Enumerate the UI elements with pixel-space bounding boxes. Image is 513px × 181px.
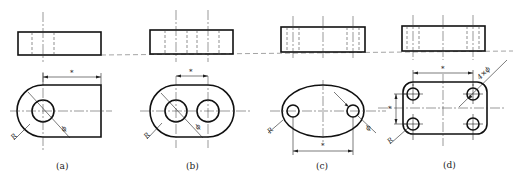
dim-star-c: * <box>321 142 325 150</box>
radius-label-b: R <box>142 131 153 142</box>
dim-star-d-horizontal: * <box>441 65 445 73</box>
radius-label-d: R <box>385 136 396 147</box>
front-view-b <box>150 10 233 62</box>
dim-star-b: * <box>189 68 193 76</box>
top-view-c: * R ϕ <box>265 80 386 155</box>
caption-b: (b) <box>186 161 199 171</box>
panel-d: * * 4×ϕ R (d) <box>378 15 507 170</box>
diameter-label-c: ϕ <box>364 123 373 132</box>
dim-star-a: * <box>70 69 74 77</box>
panel-c: * R ϕ (c) <box>265 16 386 171</box>
top-view-b: * R ϕ <box>140 68 252 148</box>
front-view-a <box>18 12 101 62</box>
caption-a: (a) <box>56 161 68 171</box>
radius-label-a: R <box>9 132 20 143</box>
panel-a: * R ϕ (a) <box>9 12 112 171</box>
hole-callout-d: 4×ϕ <box>475 65 492 82</box>
top-view-d: * * 4×ϕ R <box>378 60 507 146</box>
diameter-label-b: ϕ <box>193 122 202 131</box>
panel-b: * R ϕ (b) <box>140 10 252 171</box>
top-view-a: * R ϕ <box>9 69 112 150</box>
front-view-d <box>402 15 485 60</box>
technical-drawing: * R ϕ (a) * <box>0 0 513 181</box>
diameter-label-a: ϕ <box>59 124 68 133</box>
radius-label-c: R <box>265 126 276 137</box>
caption-c: (c) <box>316 161 328 171</box>
dim-star-d-vertical: * <box>388 105 392 113</box>
caption-d: (d) <box>443 160 456 170</box>
